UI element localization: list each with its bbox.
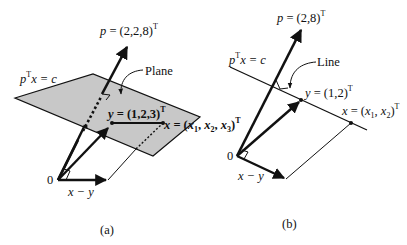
point-y-b xyxy=(299,98,303,102)
point-p-foot-a xyxy=(102,129,105,132)
caption-b: (b) xyxy=(282,217,297,231)
x-label-b: x = (x1, x2)T xyxy=(341,102,400,120)
plane-equation-label-a: pTx = c xyxy=(19,70,57,86)
parallelogram-side-a xyxy=(108,149,136,180)
y-vector-a xyxy=(58,128,108,180)
diff-label-a: x − y xyxy=(67,185,94,199)
x-label-a: x = (x1, x2, x3)T xyxy=(163,116,241,134)
point-x-b xyxy=(349,121,353,125)
origin-label-a: 0 xyxy=(47,173,53,187)
y-vector-b xyxy=(237,102,299,156)
diff-label-b: x − y xyxy=(237,169,264,183)
p-vector-b xyxy=(237,30,301,156)
p-label-a: p = (2,2,8)T xyxy=(99,22,158,38)
point-y-a xyxy=(110,121,114,125)
line-callout-arrow xyxy=(290,62,316,88)
right-angle-marker-b xyxy=(276,80,288,89)
line-callout-label: Line xyxy=(317,55,340,69)
plane-callout-label: Plane xyxy=(145,64,173,78)
parallelogram-side-b xyxy=(286,123,351,179)
figure-canvas: p = (2,2,8)T pTx = c Plane y = (1,2,3)T … xyxy=(0,0,407,245)
origin-label-b: 0 xyxy=(227,149,233,163)
p-label-b: p = (2,8)T xyxy=(276,9,326,25)
point-hidden-a xyxy=(84,125,87,128)
panel-a: p = (2,2,8)T pTx = c Plane y = (1,2,3)T … xyxy=(15,22,241,237)
line-equation-label-b: pTx = c xyxy=(228,51,266,67)
x-vector-a xyxy=(58,125,85,180)
panel-b: p = (2,8)T pTx = c Line y = (1,2)T x = (… xyxy=(227,9,400,231)
y-label-a: y = (1,2,3)T xyxy=(106,105,166,121)
caption-a: (a) xyxy=(100,223,114,237)
y-label-b: y = (1,2)T xyxy=(303,84,353,100)
